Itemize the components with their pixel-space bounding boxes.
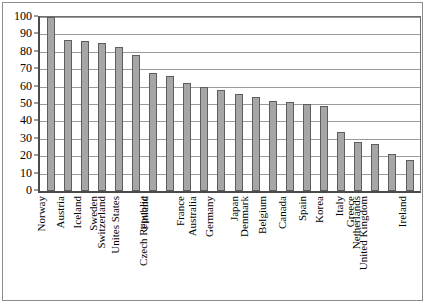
x-axis-tick-label: Czech Republic: [138, 126, 149, 196]
x-axis-tick-label: Italy: [334, 176, 345, 196]
y-axis-tick-label: 70: [20, 62, 32, 74]
x-axis-tick-label: Korea: [314, 169, 325, 196]
bar-slot: [367, 17, 384, 191]
x-axis-tick-label: Spain: [297, 171, 308, 196]
y-axis: 1009080706050403020100: [0, 10, 34, 194]
bar[interactable]: [217, 90, 225, 191]
x-axis-tick-slot: Canada: [279, 194, 296, 302]
bar-slot: [162, 17, 179, 191]
x-axis: NorwayAustriaIcelandSwedenSwitzerlandUni…: [38, 194, 418, 302]
bar[interactable]: [371, 144, 379, 191]
y-axis-tick-label: 10: [20, 167, 32, 179]
x-axis-tick-slot: Spain: [296, 194, 313, 302]
x-axis-tick-label: Ireland: [397, 165, 408, 196]
y-axis-tick-label: 80: [20, 45, 32, 57]
x-axis-tick-label: Canada: [276, 163, 287, 196]
x-axis-tick-slot: Korea: [314, 194, 331, 302]
bar-slot: [213, 17, 230, 191]
y-axis-tick-label: 0: [26, 184, 32, 196]
x-axis-tick-label: Unites States: [110, 138, 121, 196]
x-axis-tick-slot: Ireland: [399, 194, 416, 302]
y-axis-tick-label: 100: [14, 10, 32, 22]
y-axis-tick-label: 30: [20, 132, 32, 144]
x-axis-tick-label: France: [175, 166, 186, 196]
bar[interactable]: [47, 17, 55, 191]
x-axis-tick-label: Norway: [36, 161, 47, 196]
x-axis-tick-label: Iceland: [72, 164, 83, 196]
x-axis-tick-label: Australia: [187, 156, 198, 196]
x-axis-tick-slot: Germany: [211, 194, 228, 302]
y-axis-tick-label: 20: [20, 149, 32, 161]
bar[interactable]: [149, 73, 157, 191]
x-axis-tick-label: Switzerland: [96, 143, 107, 196]
x-axis-tick-label: Denmark: [238, 155, 249, 196]
y-axis-tick-label: 50: [20, 97, 32, 109]
bar[interactable]: [388, 154, 396, 191]
bar-slot: [298, 17, 315, 191]
y-axis-tick-label: 60: [20, 80, 32, 92]
x-axis-tick-label: Germany: [204, 155, 215, 196]
x-axis-tick-label: Belgium: [257, 158, 268, 196]
y-axis-tick-label: 90: [20, 27, 32, 39]
bar-chart-figure: 1009080706050403020100 NorwayAustriaIcel…: [0, 0, 426, 304]
bar-slot: [316, 17, 333, 191]
y-axis-tick-label: 40: [20, 114, 32, 126]
x-axis-tick-label: United Kingdom: [358, 122, 369, 196]
x-axis-tick-label: Austria: [54, 164, 65, 196]
bar[interactable]: [166, 76, 174, 191]
